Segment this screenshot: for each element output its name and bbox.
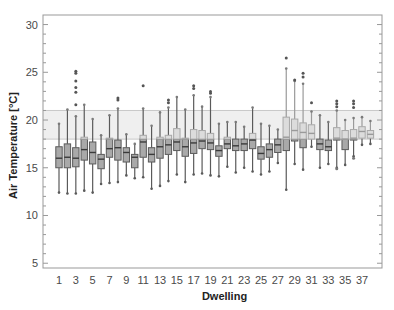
whisker-cap-upper (58, 123, 61, 126)
box-upper-part (291, 119, 297, 139)
whisker-cap-upper (268, 124, 271, 127)
outlier-point (352, 106, 355, 109)
whisker-cap-lower (260, 173, 263, 176)
x-tick-label: 11 (137, 274, 148, 286)
box-upper-part (207, 133, 213, 139)
outlier-point (167, 98, 170, 101)
box-upper-part (342, 131, 348, 140)
box-upper-part (81, 137, 87, 139)
outlier-point (74, 103, 77, 106)
box-plot-chart: 51015202530 1357911131517192123252729313… (0, 0, 394, 310)
whisker-cap-upper (218, 123, 221, 126)
whisker-cap-upper (234, 121, 237, 124)
outlier-point (335, 102, 338, 105)
box-upper-part (157, 137, 163, 139)
y-tick-label: 20 (26, 114, 38, 126)
x-tick-label: 37 (356, 274, 368, 286)
box-lower-part (275, 139, 281, 152)
outlier-point (285, 56, 288, 59)
box-dwelling-31 (308, 101, 314, 148)
whisker-cap-upper (369, 120, 372, 123)
x-tick-label: 35 (339, 274, 351, 286)
whisker-cap-upper (310, 110, 313, 113)
whisker-cap-lower (83, 189, 86, 192)
outlier-point (302, 76, 305, 79)
x-tick-label: 17 (188, 274, 200, 286)
whisker-cap-lower (369, 143, 372, 146)
whisker-cap-lower (176, 173, 179, 176)
x-tick-label: 1 (56, 274, 62, 286)
whisker-cap-upper (100, 134, 103, 137)
x-tick-label: 23 (238, 274, 250, 286)
outlier-point (310, 101, 313, 104)
whisker-cap-upper (302, 82, 305, 85)
box-lower-part (207, 139, 213, 150)
box-lower-part (233, 139, 239, 150)
whisker-cap-lower (234, 171, 237, 174)
box-lower-part (165, 139, 171, 154)
x-tick-label: 13 (154, 274, 166, 286)
whisker-cap-upper (91, 118, 94, 121)
outlier-point (209, 90, 212, 93)
whisker-cap-lower (293, 163, 296, 166)
x-tick-label: 33 (322, 274, 334, 286)
x-tick-label: 21 (221, 274, 233, 286)
box-upper-part (300, 123, 306, 139)
y-tick-label: 30 (26, 19, 38, 31)
box-dwelling-19 (207, 90, 213, 177)
box-dwelling-6 (98, 134, 104, 185)
whisker-cap-upper (150, 124, 153, 127)
whisker-cap-lower (268, 170, 271, 173)
whisker-cap-lower (327, 163, 330, 166)
whisker-cap-lower (184, 181, 187, 184)
whisker-cap-lower (310, 145, 313, 148)
x-tick-label: 29 (289, 274, 301, 286)
whisker-cap-upper (184, 108, 187, 111)
x-tick-label: 3 (73, 274, 79, 286)
box-upper-part (182, 138, 188, 139)
whisker-cap-upper (75, 115, 78, 118)
whisker-cap-lower (251, 170, 254, 173)
whisker-cap-lower (226, 166, 229, 169)
outlier-point (352, 102, 355, 105)
whisker-cap-lower (277, 162, 280, 165)
box-lower-part (283, 139, 289, 150)
outlier-point (192, 84, 195, 87)
outlier-point (293, 78, 296, 81)
whisker-cap-lower (243, 166, 246, 169)
box-lower-part (182, 139, 188, 156)
whisker-cap-upper (192, 94, 195, 97)
outlier-point (335, 167, 338, 170)
whisker-cap-lower (319, 166, 322, 169)
outlier-point (74, 86, 77, 89)
x-axis-title: Dwelling (202, 290, 247, 302)
whisker-cap-upper (335, 109, 338, 112)
y-tick-label: 15 (26, 162, 38, 174)
outlier-point (142, 84, 145, 87)
whisker-cap-lower (108, 182, 111, 185)
box-lower-part (132, 154, 138, 167)
whisker-cap-lower (66, 192, 69, 195)
box-lower-part (157, 139, 163, 158)
whisker-cap-lower (302, 168, 305, 171)
whisker-cap-upper (243, 125, 246, 128)
box-upper-part (334, 128, 340, 139)
box-lower-part (115, 140, 121, 160)
whisker-cap-upper (142, 107, 145, 110)
box-upper-part (190, 130, 196, 140)
whisker-cap-upper (133, 143, 136, 146)
box-dwelling-10 (132, 143, 138, 180)
whisker-cap-upper (125, 133, 128, 136)
whisker-cap-upper (108, 114, 111, 117)
box-lower-part (266, 144, 272, 157)
whisker-cap-upper (83, 103, 86, 106)
x-tick-label: 31 (305, 274, 317, 286)
x-tick-label: 9 (123, 274, 129, 286)
outlier-point (352, 157, 355, 160)
box-dwelling-15 (174, 96, 180, 176)
box-dwelling-28 (283, 56, 289, 191)
x-tick-label: 7 (106, 274, 112, 286)
whisker-cap-upper (361, 116, 364, 119)
box-upper-part (140, 135, 146, 139)
whisker-cap-lower (75, 192, 78, 195)
